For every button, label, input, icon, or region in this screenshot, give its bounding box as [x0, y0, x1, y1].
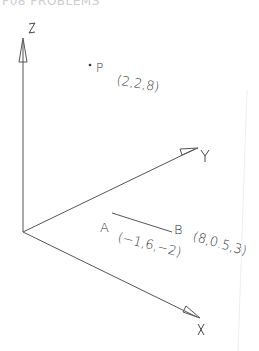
y-axis: [23, 148, 209, 232]
z-axis: [19, 23, 35, 232]
y-label: [201, 150, 209, 162]
point-a-coords: (−1,6,−2): [116, 229, 183, 259]
z-label: [29, 23, 35, 33]
point-b-label: B: [174, 222, 183, 237]
x-arrow-icon: [183, 306, 200, 318]
x-label: [198, 324, 204, 335]
point-p-dot: [89, 64, 92, 67]
3d-coordinate-diagram: P (2,2,8) A (−1,6,−2) B (8,0.5,3): [0, 0, 259, 351]
point-a-label: A: [100, 220, 109, 235]
point-p-label: P: [96, 61, 103, 75]
point-p-coords: (2,2,8): [115, 72, 160, 94]
page-edge: [238, 90, 247, 351]
point-b-coords: (8,0.5,3): [191, 228, 249, 258]
y-arrow-icon: [180, 148, 198, 155]
